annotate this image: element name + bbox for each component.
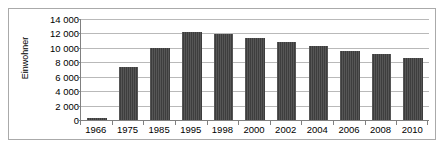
x-tick-label: 1966 <box>80 121 112 139</box>
x-tick-label: 1985 <box>143 121 175 139</box>
x-tick-label-text: 1998 <box>212 124 233 135</box>
bar <box>372 54 392 120</box>
x-tick-mark <box>270 121 271 125</box>
bar-cell <box>144 19 176 120</box>
y-tick-label: 14 000 <box>33 14 79 25</box>
x-tick-label-text: 2006 <box>338 124 359 135</box>
y-axis-tick-labels: 14 00012 00010 0008 0006 0004 0002 0000 <box>33 9 79 141</box>
x-tick-label-text: 2000 <box>243 124 264 135</box>
bar <box>182 32 202 120</box>
bar <box>119 67 139 120</box>
bar-cell <box>208 19 240 120</box>
bar-cell <box>366 19 398 120</box>
y-tick-label: 12 000 <box>33 28 79 39</box>
x-tick-label: 2004 <box>301 121 333 139</box>
x-tick-label-text: 2008 <box>370 124 391 135</box>
bar-cell <box>113 19 145 120</box>
bar-cell <box>239 19 271 120</box>
y-tick-label: 2 000 <box>33 100 79 111</box>
population-bar-chart: Einwohner 14 00012 00010 0008 0006 0004 … <box>9 9 437 141</box>
x-tick-label: 1998 <box>207 121 239 139</box>
x-tick-label-text: 2010 <box>402 124 423 135</box>
bar <box>245 38 265 120</box>
x-tick-label-text: 1966 <box>85 124 106 135</box>
x-tick-mark <box>207 121 208 125</box>
x-tick-mark <box>238 121 239 125</box>
bar <box>87 118 107 120</box>
x-tick-label: 2010 <box>396 121 428 139</box>
x-tick-label: 2008 <box>365 121 397 139</box>
x-tick-label: 1995 <box>175 121 207 139</box>
y-tick-label: 8 000 <box>33 57 79 68</box>
x-tick-mark <box>143 121 144 125</box>
y-tick-label: 4 000 <box>33 86 79 97</box>
bar <box>277 42 297 120</box>
bar-cell <box>176 19 208 120</box>
x-tick-mark <box>333 121 334 125</box>
x-tick-label: 2002 <box>270 121 302 139</box>
bar-cell <box>302 19 334 120</box>
bar <box>340 51 360 120</box>
x-tick-label-text: 1985 <box>149 124 170 135</box>
bar <box>403 58 423 120</box>
y-tick-label: 6 000 <box>33 71 79 82</box>
bar-cell <box>81 19 113 120</box>
y-axis-title: Einwohner <box>20 18 30 98</box>
x-tick-mark <box>112 121 113 125</box>
bar <box>150 48 170 120</box>
x-tick-label: 2006 <box>333 121 365 139</box>
x-tick-mark <box>80 121 81 125</box>
x-tick-mark <box>301 121 302 125</box>
x-tick-mark <box>175 121 176 125</box>
bar-cell <box>397 19 429 120</box>
x-tick-label-text: 1995 <box>180 124 201 135</box>
x-tick-mark <box>427 121 428 125</box>
bar <box>309 46 329 120</box>
plot-area <box>80 19 429 121</box>
x-axis-tick-labels: 1966197519851995199820002002200420062008… <box>80 121 428 139</box>
chart-frame: Einwohner 14 00012 00010 0008 0006 0004 … <box>8 8 436 140</box>
bar <box>214 34 234 120</box>
y-tick-label: 0 <box>33 115 79 126</box>
x-tick-label: 2000 <box>238 121 270 139</box>
bar-series <box>81 19 429 120</box>
bar-cell <box>271 19 303 120</box>
bar-cell <box>334 19 366 120</box>
x-tick-label: 1975 <box>112 121 144 139</box>
x-tick-mark <box>365 121 366 125</box>
y-tick-label: 10 000 <box>33 42 79 53</box>
x-tick-label-text: 2002 <box>275 124 296 135</box>
x-tick-label-text: 1975 <box>117 124 138 135</box>
x-tick-label-text: 2004 <box>307 124 328 135</box>
x-tick-mark <box>396 121 397 125</box>
